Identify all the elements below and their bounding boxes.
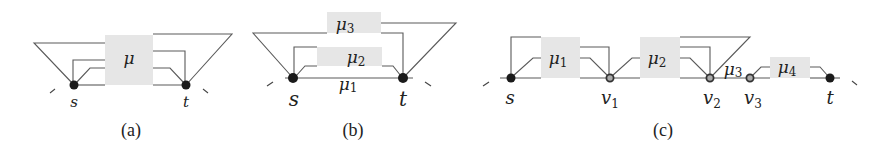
continuation-dash-left	[267, 82, 273, 86]
vertex-v1-label: v1	[601, 87, 619, 111]
vertex-s-label: s	[289, 87, 299, 111]
mu2-edge-right	[382, 66, 401, 76]
mu3-edge-right	[381, 33, 403, 78]
vertex-s-label: s	[505, 87, 514, 108]
outer-edge-right	[153, 34, 232, 85]
vertex-v3	[746, 74, 753, 81]
panel-b: μ3 μ2 μ1 s t (b)	[253, 12, 456, 141]
vertex-s	[70, 81, 79, 90]
vertex-v2	[706, 74, 713, 81]
mu4-edge-right	[810, 67, 828, 76]
edge-mu3-label: μ3	[724, 59, 743, 80]
mu1-edge-left-2	[513, 58, 541, 76]
mu2-edge-left-2	[296, 66, 317, 76]
vertex-t-label: t	[183, 93, 190, 111]
component-mu-label: μ	[123, 48, 134, 68]
continuation-dash-right	[852, 81, 857, 85]
continuation-dash-right	[203, 89, 208, 93]
continuation-dash-left	[50, 89, 55, 93]
vertex-s-label: s	[70, 93, 78, 111]
mu2-edge-right-2	[680, 58, 708, 76]
mu2-edge-left	[612, 58, 640, 76]
caption-b: (b)	[343, 120, 364, 141]
mu1-edge-right-2	[580, 58, 608, 76]
caption-a: (a)	[121, 120, 141, 141]
vertex-s	[507, 74, 516, 83]
inner-edge-right-2	[153, 68, 184, 83]
edge-mu1-label: μ1	[339, 74, 358, 95]
vertex-t	[826, 74, 835, 83]
vertex-t	[398, 73, 408, 83]
vertex-v3-label: v3	[744, 87, 762, 111]
panel-c: μ1 μ2 μ3 μ4 s v1 v2 v3 t (c)	[483, 37, 857, 141]
vertex-t	[182, 81, 191, 90]
mu4-edge-left	[752, 67, 770, 76]
outer-edge-left	[34, 43, 105, 85]
mu2-edge-left-1	[294, 47, 317, 78]
continuation-dash-right	[425, 82, 431, 86]
caption-c: (c)	[653, 120, 673, 141]
vertex-t-label: t	[826, 87, 834, 108]
vertex-v2-label: v2	[703, 87, 721, 111]
inner-edge-left-2	[76, 68, 105, 83]
outer-edge-right	[381, 23, 456, 78]
panel-a: μ s t (a)	[34, 34, 232, 141]
vertex-t-label: t	[399, 87, 408, 111]
continuation-dash-left	[483, 82, 489, 86]
vertex-s	[288, 73, 298, 83]
vertex-v1	[606, 74, 613, 81]
outer-edge-left	[253, 33, 327, 78]
diagram-canvas: μ s t (a) μ3 μ2 μ1 s t (b)	[0, 0, 886, 153]
